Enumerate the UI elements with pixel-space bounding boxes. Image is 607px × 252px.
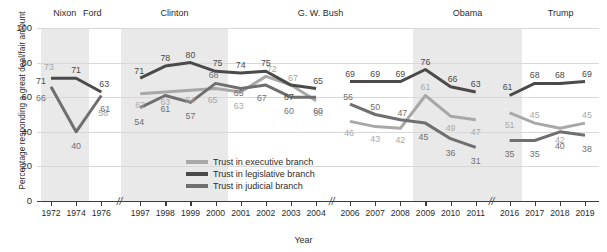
data-label-trust-in-judicial-branch-2007: 50 <box>370 102 380 112</box>
data-label-trust-in-judicial-branch-2003: 60 <box>284 106 294 116</box>
x-tick-mark-2004 <box>316 201 317 206</box>
data-label-trust-in-executive-branch-2008: 42 <box>395 135 405 145</box>
data-label-trust-in-executive-branch-1997: 62 <box>135 100 145 110</box>
x-tick-mark-1998 <box>165 201 166 206</box>
data-label-trust-in-executive-branch-2003: 67 <box>288 73 298 83</box>
x-tick-mark-2016 <box>510 201 511 206</box>
legend-item-trust-in-executive-branch: Trust in executive branch <box>186 156 315 168</box>
data-label-trust-in-executive-branch-1972: 73 <box>44 62 54 72</box>
data-label-trust-in-legislative-branch-2002: 75 <box>261 58 271 68</box>
data-label-trust-in-executive-branch-2016: 51 <box>505 120 515 130</box>
x-tick-label-2010: 2010 <box>441 208 460 218</box>
chart-legend: Trust in executive branchTrust in legisl… <box>186 156 315 192</box>
data-label-trust-in-legislative-branch-2006: 69 <box>345 69 355 79</box>
x-tick-mark-1974 <box>76 201 77 206</box>
x-tick-mark-2017 <box>535 201 536 206</box>
x-tick-mark-2010 <box>451 201 452 206</box>
data-label-trust-in-judicial-branch-2019: 38 <box>582 144 592 154</box>
x-tick-label-2004: 2004 <box>307 208 326 218</box>
x-tick-label-2003: 2003 <box>281 208 300 218</box>
series-line-trust-in-judicial-branch <box>51 87 101 132</box>
data-label-trust-in-legislative-branch-1972: 71 <box>36 76 46 86</box>
legend-swatch-icon <box>186 160 208 164</box>
x-axis-break-mark: // <box>489 197 495 207</box>
legend-swatch-icon <box>186 184 208 188</box>
data-label-trust-in-judicial-branch-2017: 35 <box>530 149 540 159</box>
data-label-trust-in-legislative-branch-2016: 61 <box>503 82 513 92</box>
data-label-trust-in-legislative-branch-2019: 69 <box>582 69 592 79</box>
y-tick-label-20: 20 <box>8 160 32 171</box>
data-label-trust-in-judicial-branch-2011: 31 <box>471 156 481 166</box>
x-tick-label-1972: 1972 <box>41 208 60 218</box>
series-line-trust-in-executive-branch <box>510 113 585 129</box>
x-tick-mark-2001 <box>241 201 242 206</box>
data-label-trust-in-judicial-branch-2000: 68 <box>209 70 219 80</box>
series-line-trust-in-judicial-branch <box>510 132 585 141</box>
x-tick-mark-2018 <box>560 201 561 206</box>
data-label-trust-in-judicial-branch-2009: 45 <box>419 132 429 142</box>
president-label-ford: Ford <box>83 8 102 18</box>
x-tick-mark-1972 <box>51 201 52 206</box>
data-label-trust-in-executive-branch-2017: 45 <box>530 110 540 120</box>
data-label-trust-in-judicial-branch-1998: 61 <box>160 104 170 114</box>
x-axis-title: Year <box>0 235 607 245</box>
data-label-trust-in-executive-branch-1999: 64 <box>186 95 196 105</box>
x-tick-mark-2019 <box>585 201 586 206</box>
data-label-trust-in-judicial-branch-2016: 35 <box>505 149 515 159</box>
x-tick-label-2009: 2009 <box>416 208 435 218</box>
x-tick-label-2000: 2000 <box>206 208 225 218</box>
x-tick-label-2007: 2007 <box>366 208 385 218</box>
data-label-trust-in-judicial-branch-1999: 57 <box>186 111 196 121</box>
data-label-trust-in-executive-branch-2011: 47 <box>471 127 481 137</box>
president-label-g-w-bush: G. W. Bush <box>298 8 344 18</box>
x-tick-mark-2009 <box>425 201 426 206</box>
x-tick-mark-2002 <box>266 201 267 206</box>
data-label-trust-in-legislative-branch-1974: 71 <box>71 65 81 75</box>
x-tick-label-1998: 1998 <box>156 208 175 218</box>
data-label-trust-in-judicial-branch-1997: 54 <box>134 117 144 127</box>
data-label-trust-in-judicial-branch-2018: 40 <box>555 141 565 151</box>
data-label-trust-in-executive-branch-2007: 43 <box>370 134 380 144</box>
x-tick-mark-2003 <box>291 201 292 206</box>
president-label-clinton: Clinton <box>160 8 188 18</box>
data-label-trust-in-legislative-branch-2009: 76 <box>421 57 431 67</box>
x-axis-break-mark: // <box>329 197 335 207</box>
x-tick-mark-2011 <box>476 201 477 206</box>
data-label-trust-in-legislative-branch-2004: 65 <box>313 76 323 86</box>
data-label-trust-in-judicial-branch-1976: 61 <box>100 104 110 114</box>
data-label-trust-in-judicial-branch-1972: 66 <box>36 93 46 103</box>
x-tick-label-2001: 2001 <box>231 208 250 218</box>
data-label-trust-in-legislative-branch-1997: 71 <box>134 66 144 76</box>
x-tick-label-1999: 1999 <box>181 208 200 218</box>
data-label-trust-in-legislative-branch-2000: 75 <box>213 58 223 68</box>
series-line-trust-in-legislative-branch <box>510 82 585 96</box>
data-label-trust-in-executive-branch-2009: 61 <box>421 82 431 92</box>
data-label-trust-in-executive-branch-2010: 49 <box>446 123 456 133</box>
x-tick-mark-2006 <box>350 201 351 206</box>
data-label-trust-in-legislative-branch-2003: 67 <box>284 92 294 102</box>
data-label-trust-in-judicial-branch-2004: 60 <box>313 106 323 116</box>
data-label-trust-in-legislative-branch-2017: 68 <box>530 70 540 80</box>
data-label-trust-in-legislative-branch-2001: 74 <box>236 60 246 70</box>
x-tick-label-2002: 2002 <box>256 208 275 218</box>
data-label-trust-in-judicial-branch-2006: 56 <box>343 92 353 102</box>
legend-item-trust-in-judicial-branch: Trust in judicial branch <box>186 180 315 192</box>
x-tick-mark-1999 <box>190 201 191 206</box>
data-label-trust-in-executive-branch-2019: 45 <box>582 110 592 120</box>
data-label-trust-in-legislative-branch-2010: 66 <box>448 74 458 84</box>
legend-label: Trust in legislative branch <box>213 169 315 179</box>
legend-item-trust-in-legislative-branch: Trust in legislative branch <box>186 168 315 180</box>
x-tick-mark-2008 <box>400 201 401 206</box>
x-tick-label-2018: 2018 <box>550 208 569 218</box>
data-label-trust-in-executive-branch-2000: 65 <box>208 95 218 105</box>
trust-in-government-line-chart: Percentage responding a great deal/fair … <box>0 0 607 252</box>
x-tick-mark-2000 <box>216 201 217 206</box>
x-tick-mark-2007 <box>375 201 376 206</box>
data-label-trust-in-legislative-branch-1976: 63 <box>99 79 109 89</box>
x-tick-label-2017: 2017 <box>525 208 544 218</box>
x-tick-label-2016: 2016 <box>500 208 519 218</box>
plot-area: 7358626364656372675846434261494751454245… <box>37 28 599 201</box>
president-label-nixon: Nixon <box>53 8 76 18</box>
data-label-trust-in-legislative-branch-2008: 69 <box>395 69 405 79</box>
data-label-trust-in-judicial-branch-2001: 65 <box>234 88 244 98</box>
